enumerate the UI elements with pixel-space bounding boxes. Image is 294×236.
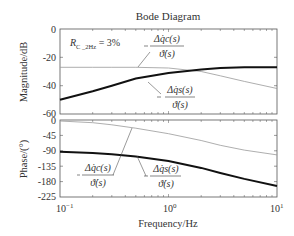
magnitude-label-qc: Δq̇c(s) ϑ̇(s) bbox=[138, 33, 184, 67]
mag-tick-neg20: -20 bbox=[43, 52, 56, 63]
r-annotation: RC _2Hz = 3% bbox=[69, 37, 120, 50]
phase-y-axis-label: Phase/(°) bbox=[18, 139, 30, 178]
label-qs-denominator: ϑ̇(s) bbox=[172, 99, 188, 111]
phase-tick-neg45: -45 bbox=[43, 130, 56, 141]
x-axis-label: Frequency/Hz bbox=[138, 218, 198, 229]
phase-y-tick-labels: 0 -45 -90 -135 -180 -225 bbox=[38, 115, 56, 202]
x-tick-labels: 10−1 100 101 bbox=[56, 202, 284, 214]
phase-curve-qc bbox=[60, 121, 277, 155]
mag-tick-0: 0 bbox=[51, 24, 56, 35]
phase-y-ticks bbox=[60, 135, 277, 181]
magnitude-y-axis-label: Magnitude/dB bbox=[18, 42, 29, 103]
phase-label-qs-numerator: Δq̇s(s) bbox=[152, 163, 179, 175]
x-tick-0.1: 10−1 bbox=[56, 202, 74, 214]
x-tick-1: 100 bbox=[163, 202, 177, 214]
phase-label-qc-numerator: Δq̇c(s) bbox=[84, 162, 112, 174]
phase-tick-0: 0 bbox=[51, 115, 56, 126]
label-qc-denominator: ϑ̇(s) bbox=[159, 48, 175, 60]
phase-tick-neg180: -180 bbox=[38, 176, 56, 187]
phase-tick-neg90: -90 bbox=[43, 145, 56, 156]
label-qs-numerator: Δq̇s(s) bbox=[166, 84, 193, 96]
x-minor-ticks bbox=[93, 29, 272, 197]
phase-label-qs: Δq̇s(s) ϑ̇(s) bbox=[137, 156, 181, 190]
phase-label-qc-denominator: ϑ̇(s) bbox=[90, 177, 106, 189]
mag-tick-neg40: -40 bbox=[43, 80, 56, 91]
phase-label-qc: Δq̇c(s) ϑ̇(s) bbox=[77, 128, 132, 189]
x-tick-10: 101 bbox=[270, 202, 284, 214]
label-qc-numerator: Δq̇c(s) bbox=[153, 33, 181, 45]
magnitude-label-qs: Δq̇s(s) ϑ̇(s) bbox=[148, 82, 195, 111]
phase-label-qs-denominator: ϑ̇(s) bbox=[158, 178, 174, 190]
chart-title: Bode Diagram bbox=[136, 10, 201, 22]
phase-tick-neg135: -135 bbox=[38, 161, 56, 172]
phase-tick-neg225: -225 bbox=[38, 191, 56, 202]
bode-diagram: Bode Diagram 0 -20 -40 -60 bbox=[0, 0, 294, 236]
magnitude-y-tick-labels: 0 -20 -40 -60 bbox=[43, 24, 56, 119]
